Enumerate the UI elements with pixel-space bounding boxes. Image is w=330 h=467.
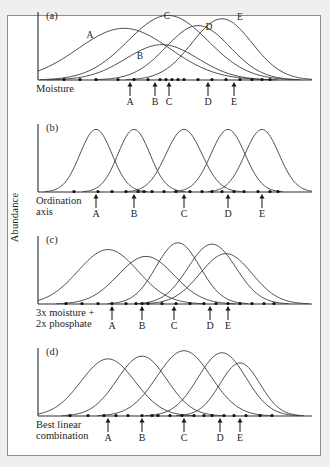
arrow-head-a	[127, 83, 132, 87]
sample-dot	[276, 190, 279, 193]
sample-dot	[224, 78, 227, 81]
sample-dot	[210, 190, 213, 193]
species-curve-d	[135, 244, 289, 303]
sample-dot	[272, 302, 275, 305]
sample-dot	[202, 414, 205, 417]
sample-dot	[116, 78, 119, 81]
species-curve-b	[62, 356, 222, 415]
sample-dot	[142, 190, 145, 193]
x-axis-caption-c: 3x moisture +2x phosphate	[36, 307, 94, 329]
sample-dot	[232, 190, 235, 193]
sample-dot	[78, 78, 81, 81]
species-curve-a	[38, 250, 204, 304]
sample-dot	[96, 190, 99, 193]
sample-dot	[162, 190, 165, 193]
species-curve-e	[208, 129, 312, 191]
sample-dot	[196, 78, 199, 81]
arrow-head-a	[109, 307, 114, 311]
sample-dot	[250, 78, 253, 81]
arrow-label-e: E	[259, 208, 265, 219]
sample-dot	[210, 78, 213, 81]
arrow-label-c: C	[171, 320, 178, 331]
species-label-d: D	[206, 22, 213, 32]
species-curve-b	[47, 45, 277, 80]
arrow-label-a: A	[104, 432, 112, 443]
sample-dot	[174, 302, 177, 305]
x-axis-caption-line2: 2x phosphate	[36, 318, 94, 329]
arrow-label-e: E	[237, 432, 243, 443]
sample-dot	[188, 190, 191, 193]
arrow-label-c: C	[166, 96, 173, 107]
arrow-head-e	[259, 195, 264, 199]
arrow-head-b	[152, 83, 157, 87]
arrow-head-a	[93, 195, 98, 199]
species-curve-d	[96, 26, 301, 80]
arrow-head-d	[205, 83, 210, 87]
sample-dot	[124, 302, 127, 305]
sample-dot	[270, 414, 273, 417]
sample-dot	[200, 190, 203, 193]
sample-dot	[238, 302, 241, 305]
panel-tag-d: (d)	[46, 346, 58, 357]
arrow-label-a: A	[92, 208, 100, 219]
panel-c: ABCDE(c)3x moisture +2x phosphate	[12, 226, 312, 338]
species-curve-c	[126, 129, 241, 191]
panel-d: ABCDE(d)Best linearcombination	[12, 338, 312, 450]
sample-dot	[134, 302, 137, 305]
arrow-label-b: B	[139, 432, 146, 443]
arrow-head-a	[105, 419, 110, 423]
sample-dot	[102, 414, 105, 417]
arrow-label-b: B	[131, 208, 138, 219]
sample-dot	[244, 414, 247, 417]
x-axis-caption-line1: Ordination	[36, 195, 82, 206]
panel-tag-a: (a)	[46, 10, 58, 21]
sample-dot	[260, 78, 263, 81]
sample-dot	[202, 302, 205, 305]
arrow-head-c	[181, 195, 186, 199]
sample-dot	[72, 190, 75, 193]
x-axis-caption-line1: Moisture	[36, 83, 74, 94]
sample-dot	[164, 78, 167, 81]
sample-dot	[64, 302, 67, 305]
sample-dot	[146, 302, 149, 305]
sample-dot	[124, 190, 127, 193]
arrow-label-b: B	[152, 96, 159, 107]
sample-dot	[94, 78, 97, 81]
arrow-label-e: E	[225, 320, 231, 331]
x-axis-caption-line1: 3x moisture +	[36, 307, 94, 318]
species-label-b: B	[137, 51, 143, 61]
sample-dot	[140, 414, 143, 417]
arrow-label-d: D	[204, 96, 211, 107]
arrow-label-a: A	[108, 320, 116, 331]
sample-dot	[62, 78, 65, 81]
x-axis-caption-line1: Best linear	[36, 419, 89, 430]
sample-dot	[176, 78, 179, 81]
sample-dot	[262, 302, 265, 305]
scan-margin-bottom	[0, 456, 330, 467]
arrow-label-c: C	[181, 208, 188, 219]
sample-dot	[110, 190, 113, 193]
sample-dot	[170, 78, 173, 81]
sample-dot	[232, 414, 235, 417]
species-label-c: C	[164, 11, 170, 21]
arrow-head-e	[237, 419, 242, 423]
panel-tag-b: (b)	[46, 122, 58, 133]
scan-margin-right	[321, 0, 330, 467]
x-axis-caption-line2: axis	[36, 206, 82, 217]
species-curve-d	[145, 353, 299, 416]
sample-dot	[210, 414, 213, 417]
species-curve-e	[176, 363, 304, 416]
arrow-head-c	[166, 83, 171, 87]
species-curve-d	[174, 129, 283, 191]
species-curve-c	[98, 351, 271, 416]
species-curve-a	[38, 28, 271, 79]
species-label-e: E	[237, 12, 243, 22]
arrow-label-b: B	[139, 320, 146, 331]
species-curve-e	[126, 19, 312, 80]
x-axis-caption-b: Ordinationaxis	[36, 195, 82, 217]
sample-dot	[150, 414, 153, 417]
sample-dot	[174, 190, 177, 193]
arrow-head-c	[181, 419, 186, 423]
panel-b: ABCDE(b)Ordinationaxis	[12, 114, 312, 226]
sample-dot	[110, 302, 113, 305]
